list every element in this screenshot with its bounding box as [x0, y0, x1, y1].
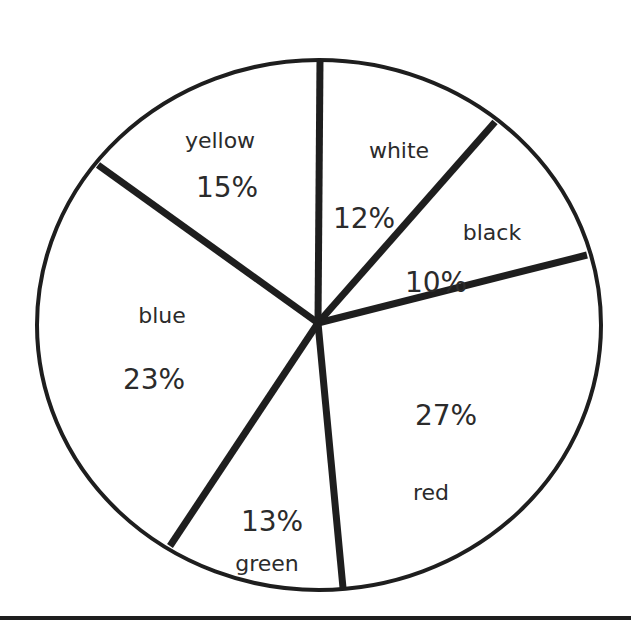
pie-chart-svg: yellow 15% white 12% black 10% 27% red b…	[0, 0, 631, 630]
slice-green-label: green	[235, 551, 299, 576]
slice-black-pct: 10%	[405, 266, 467, 299]
slice-yellow-pct: 15%	[196, 171, 258, 204]
slice-white-pct: 12%	[333, 202, 395, 235]
bottom-border-line	[0, 616, 631, 620]
pie-chart: yellow 15% white 12% black 10% 27% red b…	[0, 0, 631, 630]
slice-red-label: red	[413, 480, 449, 505]
divider-yellow-white	[318, 60, 320, 323]
slice-red-pct: 27%	[415, 399, 477, 432]
slice-blue-pct: 23%	[123, 363, 185, 396]
slice-black-label: black	[463, 220, 522, 245]
slice-white-label: white	[369, 138, 429, 163]
slice-blue-label: blue	[138, 303, 186, 328]
slice-green-pct: 13%	[241, 505, 303, 538]
slice-yellow-label: yellow	[185, 128, 255, 153]
